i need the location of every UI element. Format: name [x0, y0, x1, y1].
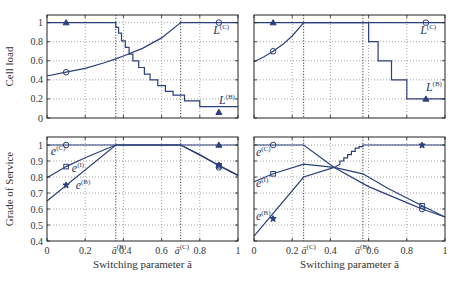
- curve-label: e(I): [72, 161, 85, 175]
- x-tick-label: 0.6: [155, 245, 168, 256]
- series-ec: [254, 145, 445, 217]
- x-tick-label: 0.4: [119, 245, 132, 256]
- grid: [254, 137, 445, 241]
- y-tick-label: 0.7: [31, 188, 44, 199]
- axes-frame: [47, 15, 238, 118]
- star-marker: [63, 182, 69, 188]
- x-tick-label: 0: [45, 245, 50, 256]
- curve-label: e(B): [76, 178, 91, 192]
- x-tick-label: 0.8: [194, 245, 207, 256]
- y-tick-label: 1: [38, 140, 43, 151]
- y-tick-label: 0.9: [31, 156, 44, 167]
- curve-label: L(C): [212, 23, 230, 37]
- panel-grade-of-service-right: e(C)e(I)e(B)00.2ā(C)0.4ā(B)0.60.81Switch…: [252, 137, 448, 270]
- x-tick-label: ā(C): [302, 243, 317, 256]
- x-tick-label: 1: [443, 245, 448, 256]
- x-tick-label: 0.8: [401, 245, 414, 256]
- grid: [47, 15, 238, 118]
- x-tick-label: 0: [252, 245, 257, 256]
- star-marker: [419, 142, 425, 148]
- triangle-marker: [216, 109, 222, 114]
- curve-label: L(B): [218, 93, 236, 107]
- panel-cell-load-left: L(C)L(B)00.20.40.60.81Cell load: [3, 15, 238, 124]
- x-axis-label: Switching parameter ā: [93, 258, 192, 270]
- axes-frame: [254, 137, 445, 241]
- curve-label: L(B): [425, 80, 443, 94]
- star-marker: [216, 162, 222, 168]
- y-tick-label: 0.8: [31, 172, 44, 183]
- series-lb: [47, 23, 238, 107]
- x-tick-label: ā(C): [175, 243, 190, 256]
- axes-frame: [254, 15, 445, 118]
- curve-label: e(B): [256, 209, 271, 223]
- y-tick-label: 0.4: [31, 74, 44, 85]
- x-tick-label: 1: [236, 245, 241, 256]
- figure: L(C)L(B)00.20.40.60.81Cell load L(C)L(B)…: [0, 0, 463, 283]
- y-axis-label: Cell load: [3, 46, 15, 87]
- x-tick-label: 0.2: [286, 245, 299, 256]
- x-axis-label: Switching parameter ā: [300, 258, 399, 270]
- series-lc: [254, 23, 445, 62]
- y-tick-label: 1: [38, 17, 43, 28]
- curve-label: e(C): [51, 144, 66, 158]
- panel-grade-of-service-left: e(C)e(I)e(B)0.40.50.60.70.80.9100.2ā(B)0…: [3, 137, 241, 270]
- panel-cell-load-right: L(C)L(B): [254, 15, 445, 118]
- y-tick-label: 0.5: [31, 220, 44, 231]
- x-tick-label: 0.6: [366, 245, 379, 256]
- y-tick-label: 0.4: [31, 236, 44, 247]
- x-tick-label: 0.4: [324, 245, 337, 256]
- x-tick-label: 0.2: [79, 245, 92, 256]
- y-tick-label: 0.8: [31, 36, 44, 47]
- y-tick-label: 0.2: [31, 93, 44, 104]
- y-tick-label: 0: [38, 113, 43, 124]
- y-axis-label: Grade of Service: [3, 152, 15, 227]
- y-tick-label: 0.6: [31, 204, 44, 215]
- curve-label: L(C): [419, 23, 437, 37]
- curve-label: e(C): [256, 145, 271, 159]
- curve-label: e(I): [256, 176, 269, 190]
- series-eb: [254, 145, 445, 236]
- y-tick-label: 0.6: [31, 55, 44, 66]
- grid: [254, 15, 445, 118]
